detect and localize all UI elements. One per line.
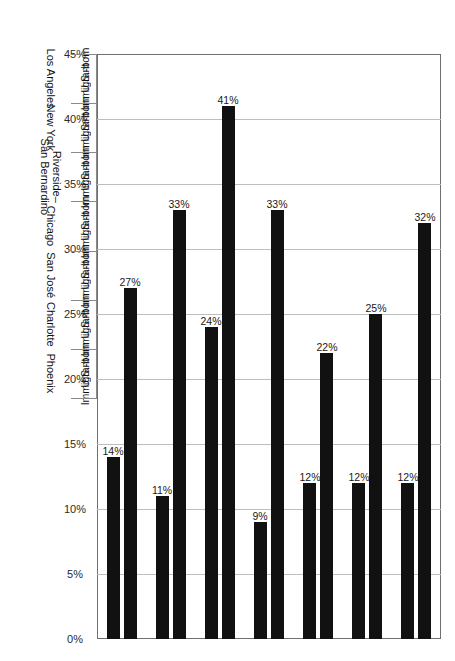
bar-value-label: 25%: [365, 302, 386, 314]
bar-value-label: 33%: [267, 198, 288, 210]
bar: [156, 496, 169, 639]
bar: [222, 106, 235, 639]
plot-area: 32%12%25%12%22%12%33%9%41%24%33%11%27%14…: [97, 54, 441, 639]
bar: [124, 288, 137, 639]
bar-value-label: 12%: [299, 471, 320, 483]
bar-value-label: 22%: [316, 341, 337, 353]
bar-value-label: 33%: [169, 198, 190, 210]
bar-value-label: 41%: [218, 94, 239, 106]
bar-value-label: 11%: [152, 484, 172, 496]
bar-value-label: 14%: [103, 445, 124, 457]
category-axis: U.S.-bornImmigrantLos AngelesU.S.-bornIm…: [2, 54, 97, 639]
category-group-separator: [71, 300, 97, 301]
category-group-separator: [71, 54, 97, 55]
category-group-separator: [71, 251, 97, 252]
bar-value-label: 12%: [397, 471, 418, 483]
bar: [271, 210, 284, 639]
category-city-label: Phoenix: [45, 328, 57, 418]
bar: [369, 314, 382, 639]
bar-value-label: 32%: [414, 211, 435, 223]
bar-series: 32%12%25%12%22%12%33%9%41%24%33%11%27%14…: [97, 54, 441, 639]
chart-stage: 32%12%25%12%22%12%33%9%41%24%33%11%27%14…: [0, 0, 455, 661]
bar: [173, 210, 186, 639]
category-group-separator: [71, 349, 97, 350]
bar-value-label: 24%: [201, 315, 222, 327]
bar: [107, 457, 120, 639]
bar: [352, 483, 365, 639]
bar: [320, 353, 333, 639]
category-group-separator: [71, 398, 97, 399]
category-group-separator: [71, 152, 97, 153]
bar: [401, 483, 414, 639]
bar-value-label: 12%: [348, 471, 369, 483]
bar: [205, 327, 218, 639]
category-group-separator: [71, 201, 97, 202]
category-axis-rule: [96, 54, 97, 398]
category-group-separator: [71, 103, 97, 104]
category-sublabel: Immigrant: [79, 352, 91, 412]
bar-value-label: 27%: [120, 276, 141, 288]
bar: [418, 223, 431, 639]
bar-value-label: 9%: [253, 510, 268, 522]
bar: [303, 483, 316, 639]
bar: [254, 522, 267, 639]
